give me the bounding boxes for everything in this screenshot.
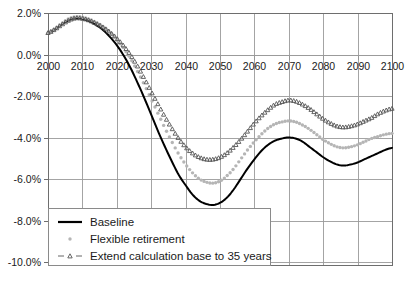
series-marker-dot xyxy=(156,111,159,114)
series-marker-dot xyxy=(327,141,330,144)
x-axis-tick-label: 2040 xyxy=(175,60,199,72)
series-marker-dot xyxy=(208,181,211,184)
series-marker-dot xyxy=(197,177,200,180)
series-marker-dot xyxy=(315,133,318,136)
y-axis-tick-label: -2.0% xyxy=(14,90,41,102)
y-axis-tick-label: -8.0% xyxy=(14,215,41,227)
series-marker-dot xyxy=(379,134,382,137)
series-marker-dot xyxy=(223,176,226,179)
x-axis-tick-label: 2000 xyxy=(37,60,61,72)
x-axis-tick-label: 2100 xyxy=(381,60,405,72)
series-marker-dot xyxy=(269,125,272,128)
x-axis-tick-label: 2010 xyxy=(71,60,95,72)
series-marker-dot xyxy=(321,137,324,140)
series-marker-dot xyxy=(382,133,385,136)
x-axis-tick-label: 2020 xyxy=(106,60,130,72)
series-marker-dot xyxy=(295,121,298,124)
series-marker-dot xyxy=(286,119,289,122)
series-marker-dot xyxy=(226,174,229,177)
series-marker-dot xyxy=(165,130,168,133)
series-marker-dot xyxy=(306,127,309,130)
series-marker-dot xyxy=(211,181,214,184)
series-marker-dot xyxy=(249,145,252,148)
series-marker-dot xyxy=(168,135,171,138)
series-marker-dot xyxy=(202,180,205,183)
series-marker-dot xyxy=(176,151,179,154)
series-marker-dot xyxy=(121,46,124,49)
series-marker-dot xyxy=(385,132,388,135)
series-marker-dot xyxy=(301,123,304,126)
legend-swatch-dot xyxy=(68,237,71,240)
series-marker-dot xyxy=(246,148,249,151)
x-axis-tick-label: 2050 xyxy=(209,60,233,72)
series-marker-dot xyxy=(266,127,269,130)
series-marker-dot xyxy=(254,138,257,141)
series-marker-dot xyxy=(318,135,321,138)
series-marker-dot xyxy=(205,181,208,184)
series-marker-dot xyxy=(283,120,286,123)
series-marker-dot xyxy=(350,145,353,148)
series-marker-dot xyxy=(356,143,359,146)
series-marker-dot xyxy=(347,146,350,149)
series-marker-dot xyxy=(373,136,376,139)
series-marker-dot xyxy=(370,137,373,140)
series-marker-dot xyxy=(361,141,364,144)
x-axis-tick-label: 2090 xyxy=(347,60,371,72)
series-marker-dot xyxy=(309,129,312,132)
series-marker-dot xyxy=(390,132,393,135)
series-marker-dot xyxy=(341,146,344,149)
series-marker-dot xyxy=(240,156,243,159)
series-marker-dot xyxy=(280,120,283,123)
series-marker-dot xyxy=(330,143,333,146)
x-axis-tick-label: 2060 xyxy=(243,60,267,72)
series-marker-dot xyxy=(338,146,341,149)
series-marker-dot xyxy=(173,146,176,149)
series-marker-dot xyxy=(260,132,263,135)
series-marker-dot xyxy=(353,144,356,147)
series-marker-dot xyxy=(292,120,295,123)
line-chart: 2.0%0.0%-2.0%-4.0%-6.0%-8.0%-10.0% 20002… xyxy=(0,0,414,281)
series-marker-dot xyxy=(191,171,194,174)
series-marker-dot xyxy=(335,145,338,148)
series-marker-dot xyxy=(220,179,223,182)
series-marker-dot xyxy=(228,171,231,174)
series-marker-dot xyxy=(304,125,307,128)
series-marker-dot xyxy=(237,160,240,163)
series-marker-dot xyxy=(194,174,197,177)
series-marker-dot xyxy=(179,156,182,159)
series-marker-dot xyxy=(231,168,234,171)
series-marker-dot xyxy=(159,118,162,121)
series-marker-dot xyxy=(263,129,266,132)
series-marker-dot xyxy=(200,178,203,181)
legend-item-label: Extend calculation base to 35 years xyxy=(90,250,272,262)
legend-item-label: Flexible retirement xyxy=(90,233,185,245)
series-marker-dot xyxy=(217,180,220,183)
chart-container: 2.0%0.0%-2.0%-4.0%-6.0%-8.0%-10.0% 20002… xyxy=(0,0,414,281)
legend-item-label: Baseline xyxy=(90,216,134,228)
y-axis-tick-label: -4.0% xyxy=(14,132,41,144)
legend-item[interactable]: Extend calculation base to 35 years xyxy=(58,250,272,262)
series-marker-dot xyxy=(234,164,237,167)
series-marker-dot xyxy=(376,135,379,138)
chart-legend: BaselineFlexible retirementExtend calcul… xyxy=(49,209,272,266)
series-marker-dot xyxy=(182,160,185,163)
series-marker-dot xyxy=(278,121,281,124)
x-axis-tick-label: 2030 xyxy=(140,60,164,72)
y-axis-tick-label: -10.0% xyxy=(8,256,41,268)
y-axis-tick-label: -6.0% xyxy=(14,173,41,185)
series-marker-dot xyxy=(272,123,275,126)
series-marker-dot xyxy=(289,119,292,122)
series-marker-dot xyxy=(188,168,191,171)
series-marker-dot xyxy=(185,164,188,167)
y-axis-ticks: 2.0%0.0%-2.0%-4.0%-6.0%-8.0%-10.0% xyxy=(8,7,48,268)
series-marker-dot xyxy=(332,144,335,147)
series-marker-dot xyxy=(243,152,246,155)
series-marker-dot xyxy=(364,139,367,142)
series-marker-dot xyxy=(252,141,255,144)
series-marker-dot xyxy=(387,132,390,135)
series-marker-dot xyxy=(312,131,315,134)
series-marker-dot xyxy=(367,138,370,141)
series-marker-dot xyxy=(344,146,347,149)
series-marker-dot xyxy=(324,139,327,142)
series-marker-dot xyxy=(298,122,301,125)
